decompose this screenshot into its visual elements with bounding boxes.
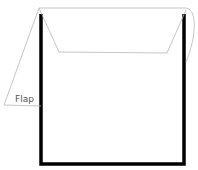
- flap-inner-fold: [39, 8, 186, 53]
- flap-right-curve: [186, 8, 194, 62]
- envelope-body-outline: [41, 14, 184, 164]
- flap-left-triangle: [4, 8, 41, 106]
- envelope-diagram: Flap: [0, 0, 198, 170]
- flap-label: Flap: [15, 94, 34, 104]
